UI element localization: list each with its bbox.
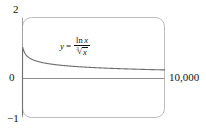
equation-equals-sign: = — [66, 42, 71, 51]
fraction-numerator: lnx — [74, 36, 90, 45]
fraction-denominator: 3 √ x — [74, 46, 89, 56]
equation-lhs: y — [60, 42, 64, 51]
equation-fraction: lnx 3 √ x — [74, 36, 90, 56]
natural-log-symbol: ln — [76, 35, 83, 45]
function-curve — [23, 47, 165, 114]
figure-container: 2 0 −1 10,000 y = lnx 3 √ x — [0, 0, 206, 135]
plot-area — [0, 0, 206, 135]
radicand: x — [82, 47, 88, 57]
root-index: 3 — [76, 46, 79, 51]
cube-root-expression: 3 √ x — [76, 47, 87, 57]
equation-annotation: y = lnx 3 √ x — [60, 36, 90, 56]
numerator-variable: x — [84, 35, 88, 45]
